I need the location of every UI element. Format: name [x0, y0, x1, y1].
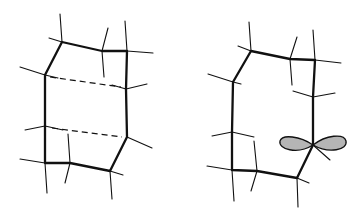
right-ring-structure [207, 22, 346, 207]
right-ring-bonds [232, 51, 315, 178]
left-transannular-upper [50, 77, 121, 87]
orbital-lobe-right [313, 136, 346, 150]
left-substituent-bonds [20, 14, 153, 199]
right-substituent-bonds [207, 22, 341, 207]
figure-canvas: Cyclodecane ring with two transannular (… [0, 0, 361, 216]
diagram-svg [0, 0, 361, 216]
left-ring-bonds [45, 42, 127, 171]
orbital-lobe-left [280, 137, 313, 150]
left-ring-structure [20, 14, 153, 199]
